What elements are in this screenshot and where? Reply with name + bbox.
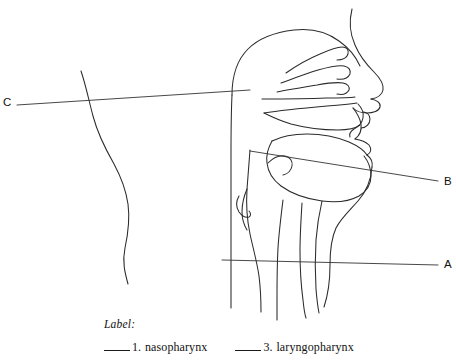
answer-blank-1[interactable] <box>104 341 130 351</box>
answer-number-3: 3. <box>263 340 272 355</box>
label-section: Label: 1. nasopharynx 3. laryngopharynx <box>104 318 434 355</box>
anatomy-drawing <box>0 0 456 364</box>
leader-line-b <box>250 151 438 181</box>
answer-term-nasopharynx: nasopharynx <box>145 340 207 355</box>
label-heading: Label: <box>104 318 434 330</box>
epiglottis-and-larynx <box>237 156 292 230</box>
leader-line-c <box>17 90 250 105</box>
palate-and-uvula <box>264 103 370 137</box>
label-answer-row: 1. nasopharynx 3. laryngopharynx <box>104 340 434 355</box>
leader-lines <box>17 90 438 265</box>
neck-profile-outline <box>81 71 129 284</box>
anatomy-figure: C B A Label: 1. nasopharynx 3. laryngoph… <box>0 0 456 364</box>
callout-letter-c: C <box>3 97 12 109</box>
trachea-and-esophagus <box>277 167 372 320</box>
answer-blank-3[interactable] <box>235 341 261 351</box>
pharyngeal-wall <box>231 95 261 312</box>
answer-term-laryngopharynx: laryngopharynx <box>276 340 353 355</box>
answer-item-3: 3. laryngopharynx <box>235 340 353 355</box>
callout-letter-a: A <box>444 259 452 271</box>
cranium-and-nasal-cavity-outline <box>232 9 383 139</box>
answer-item-1: 1. nasopharynx <box>104 340 207 355</box>
nasal-turbinates <box>262 47 355 99</box>
answer-number-1: 1. <box>132 340 141 355</box>
callout-letter-b: B <box>444 176 452 188</box>
